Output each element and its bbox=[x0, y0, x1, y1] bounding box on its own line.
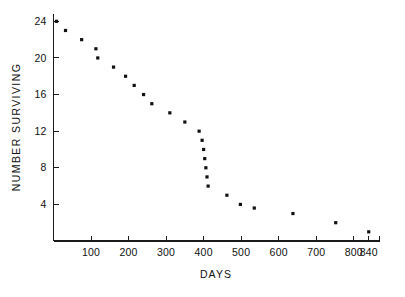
data-point bbox=[201, 139, 204, 142]
y-tick-label: 8 bbox=[40, 161, 46, 173]
y-tick-group bbox=[54, 21, 59, 204]
data-point bbox=[203, 157, 206, 160]
survival-scatter-figure: 4812162024 100200300400500600700800840 D… bbox=[0, 0, 405, 297]
data-point bbox=[367, 230, 370, 233]
x-tick-label: 400 bbox=[195, 246, 213, 258]
data-point bbox=[207, 184, 210, 187]
data-point bbox=[64, 29, 67, 32]
data-point bbox=[183, 120, 186, 123]
x-tick-label: 500 bbox=[232, 246, 250, 258]
x-tick-label: 840 bbox=[360, 246, 378, 258]
data-point bbox=[168, 111, 171, 114]
data-point bbox=[133, 84, 136, 87]
x-tick-label: 200 bbox=[119, 246, 137, 258]
data-point bbox=[142, 93, 145, 96]
data-point bbox=[239, 203, 242, 206]
y-axis-title: NUMBER SURVIVING bbox=[10, 63, 22, 191]
data-point bbox=[112, 65, 115, 68]
data-point bbox=[291, 212, 294, 215]
data-point bbox=[124, 75, 127, 78]
y-tick-label: 4 bbox=[40, 198, 46, 210]
data-point bbox=[80, 38, 83, 41]
data-point bbox=[225, 194, 228, 197]
x-tick-label: 600 bbox=[270, 246, 288, 258]
data-point bbox=[96, 56, 99, 59]
x-tick-label: 700 bbox=[307, 246, 325, 258]
y-tick-label: 12 bbox=[34, 125, 46, 137]
x-tick-label: 300 bbox=[157, 246, 175, 258]
x-tick-label: 100 bbox=[82, 246, 100, 258]
data-point bbox=[198, 130, 201, 133]
data-point bbox=[150, 102, 153, 105]
data-point bbox=[94, 47, 97, 50]
y-tick-label-group: 4812162024 bbox=[34, 15, 46, 210]
x-tick-group bbox=[91, 236, 379, 241]
y-tick-label: 24 bbox=[34, 15, 46, 27]
y-tick-label: 16 bbox=[34, 88, 46, 100]
data-point bbox=[205, 175, 208, 178]
x-tick-label-group: 100200300400500600700800840 bbox=[82, 246, 378, 258]
data-point bbox=[334, 221, 337, 224]
axes-group bbox=[54, 14, 381, 241]
data-point bbox=[202, 148, 205, 151]
data-point-group bbox=[55, 20, 370, 234]
data-point bbox=[55, 20, 58, 23]
y-tick-label: 20 bbox=[34, 52, 46, 64]
plot-canvas: 4812162024 100200300400500600700800840 D… bbox=[0, 0, 405, 297]
data-point bbox=[253, 206, 256, 209]
x-axis-title: DAYS bbox=[200, 268, 232, 280]
data-point bbox=[204, 166, 207, 169]
